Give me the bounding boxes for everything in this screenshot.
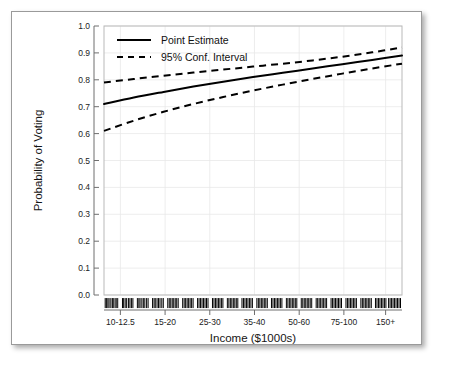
x-tick-label: 35-40	[244, 317, 266, 327]
voting-probability-line-chart: 0.00.10.20.30.40.50.60.70.80.91.0Probabi…	[12, 12, 421, 344]
x-tick-label: 150+	[376, 317, 395, 327]
x-tick-label: 75-100	[331, 317, 358, 327]
y-tick-label: 0.5	[78, 156, 90, 166]
x-axis-title: Income ($1000s)	[210, 332, 296, 344]
rug-plot	[105, 298, 400, 308]
y-tick-label: 0.4	[78, 182, 90, 192]
y-tick-label: 0.3	[78, 209, 90, 219]
legend-label: Point Estimate	[161, 34, 229, 46]
x-tick-label: 25-30	[199, 317, 221, 327]
x-tick-label: 10-12.5	[106, 317, 135, 327]
y-tick-label: 0.2	[78, 236, 90, 246]
y-axis-title: Probability of Voting	[32, 110, 44, 212]
y-tick-label: 1.0	[78, 21, 90, 31]
figure-frame: 0.00.10.20.30.40.50.60.70.80.91.0Probabi…	[11, 11, 422, 345]
x-tick-label: 50-60	[288, 317, 310, 327]
y-tick-label: 0.8	[78, 75, 90, 85]
x-tick-label: 15-20	[154, 317, 176, 327]
y-tick-label: 0.1	[78, 263, 90, 273]
y-tick-label: 0.6	[78, 129, 90, 139]
y-tick-label: 0.0	[78, 290, 90, 300]
y-tick-label: 0.9	[78, 48, 90, 58]
legend-label: 95% Conf. Interval	[161, 51, 247, 63]
series-ci	[104, 64, 402, 131]
y-tick-label: 0.7	[78, 102, 90, 112]
chart-area: 0.00.10.20.30.40.50.60.70.80.91.0Probabi…	[12, 12, 421, 344]
